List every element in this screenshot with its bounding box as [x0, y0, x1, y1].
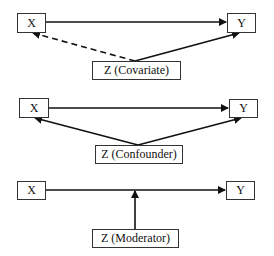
node-label: Z (Confounder) [101, 147, 177, 162]
node-z-covariate: Z (Covariate) [92, 61, 181, 80]
node-label: Y [236, 183, 245, 198]
node-label: Z (Covariate) [104, 63, 169, 78]
diagram-canvas: X Y Z (Covariate) X Y Z (Confounder) X Y… [0, 0, 274, 256]
node-label: Z (Moderator) [101, 231, 170, 246]
node-label: X [27, 16, 36, 31]
arrow-z-to-x [35, 118, 138, 145]
arrow-z-to-y [135, 33, 239, 61]
arrow-z-to-y [138, 118, 241, 145]
node-x-confounder: X [19, 98, 49, 118]
node-label: Y [239, 101, 248, 116]
confounder-arrows [35, 108, 241, 145]
node-label: Y [237, 16, 246, 31]
node-x-covariate: X [17, 13, 46, 33]
arrows-layer [0, 0, 274, 256]
node-label: X [30, 101, 39, 116]
node-label: X [27, 183, 36, 198]
covariate-arrows [33, 22, 239, 61]
node-y-moderator: Y [226, 181, 255, 200]
node-z-moderator: Z (Moderator) [92, 229, 179, 248]
moderator-arrows [45, 190, 225, 229]
node-x-moderator: X [17, 181, 46, 200]
node-y-confounder: Y [229, 99, 258, 118]
node-y-covariate: Y [227, 13, 256, 33]
node-z-confounder: Z (Confounder) [95, 145, 183, 164]
dashed-arrow-z-to-x [33, 33, 135, 61]
